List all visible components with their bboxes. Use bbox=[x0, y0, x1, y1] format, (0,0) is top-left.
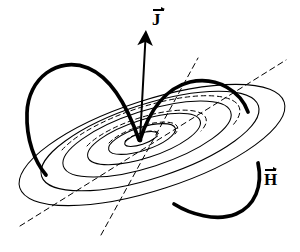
field-ellipse-outer bbox=[6, 59, 298, 231]
field-ellipse-2 bbox=[82, 103, 206, 176]
field-plane-group bbox=[6, 38, 298, 235]
current-vector-glyph: J bbox=[152, 11, 161, 28]
field-vector-label: H bbox=[264, 166, 277, 188]
field-ellipse-3 bbox=[55, 85, 240, 193]
diagram-canvas bbox=[0, 0, 300, 252]
vector-arrow-overbar-j bbox=[152, 6, 161, 12]
origin-point bbox=[138, 138, 143, 143]
vector-arrow-overbar-h bbox=[264, 166, 277, 172]
dashed-back-arcs bbox=[62, 96, 240, 150]
dipole-field-figure: J H bbox=[0, 0, 300, 252]
field-vector-glyph: H bbox=[264, 171, 277, 188]
dashed-axis-major bbox=[20, 60, 286, 226]
current-vector-label: J bbox=[152, 6, 161, 28]
field-loop-left bbox=[27, 65, 139, 175]
field-loop-lower-right bbox=[174, 163, 259, 217]
